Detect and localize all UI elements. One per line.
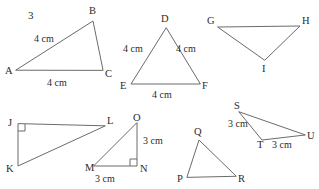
triangle-def-side-label-2: 4 cm [176,43,196,54]
triangle-abc-vertex-label-c: C [105,68,112,79]
triangle-def-vertex-label-d: D [161,13,169,24]
worksheet-figure-page: 3ABC4 cm4 cmDEF4 cm4 cm4 cmGHIJKLMNO3 cm… [0,0,319,189]
triangle-stu-outline [239,112,305,140]
triangle-stu: STU3 cm3 cm [228,100,315,150]
triangle-stu-vertex-label-s: S [234,100,240,111]
triangle-stu-side-label-1: 3 cm [228,118,248,129]
triangle-abc-side-label-2: 4 cm [47,77,67,88]
triangle-ghi-vertex-label-g: G [207,15,215,26]
triangle-jkl-vertex-label-l: L [107,115,113,126]
triangle-pqr-vertex-label-r: R [238,173,245,184]
triangle-pqr-outline [187,140,236,177]
triangle-abc-vertex-label-a: A [5,65,13,76]
triangle-abc-side-label-1: 4 cm [34,33,54,44]
triangle-mno-outline [94,123,137,166]
triangle-abc-vertex-label-b: B [89,5,96,16]
triangle-pqr-vertex-label-p: P [177,173,183,184]
triangle-ghi-vertex-label-h: H [302,15,310,26]
triangle-pqr: PQR [177,126,245,184]
triangle-stu-vertex-label-t: T [257,139,264,150]
triangle-mno-vertex-label-n: N [140,163,148,174]
triangle-def-side-label-3: 4 cm [152,89,172,100]
geometry-figure-canvas: 3ABC4 cm4 cmDEF4 cm4 cm4 cmGHIJKLMNO3 cm… [0,0,319,189]
triangle-def-outline [131,28,200,84]
triangle-mno-vertex-label-m: M [85,162,95,173]
triangle-stu-side-label-2: 3 cm [272,139,292,150]
triangle-mno-side-label-2: 3 cm [95,173,115,184]
triangle-mno-side-label-1: 3 cm [143,135,163,146]
triangle-jkl-right-angle-icon [18,124,25,131]
triangle-mno-right-angle-icon [130,159,137,166]
triangle-jkl-outline [18,124,105,166]
triangle-def: DEF4 cm4 cm4 cm [120,13,208,100]
triangle-pqr-vertex-label-q: Q [194,126,202,137]
triangle-ghi: GHI [207,15,310,74]
triangle-ghi-vertex-label-i: I [262,63,266,74]
triangle-abc-outline [16,21,103,70]
triangle-jkl: JKL [6,115,113,174]
triangle-ghi-outline [218,26,300,60]
triangle-abc: ABC4 cm4 cm [5,5,112,88]
problem-number: 3 [28,9,34,21]
triangle-jkl-vertex-label-j: J [8,117,12,128]
triangle-mno-vertex-label-o: O [133,112,141,123]
triangle-def-vertex-label-f: F [202,80,208,91]
triangle-jkl-vertex-label-k: K [6,163,14,174]
triangle-def-vertex-label-e: E [120,80,126,91]
triangle-def-side-label-1: 4 cm [123,43,143,54]
triangle-mno: MNO3 cm3 cm [85,112,163,184]
triangle-stu-vertex-label-u: U [307,130,315,141]
